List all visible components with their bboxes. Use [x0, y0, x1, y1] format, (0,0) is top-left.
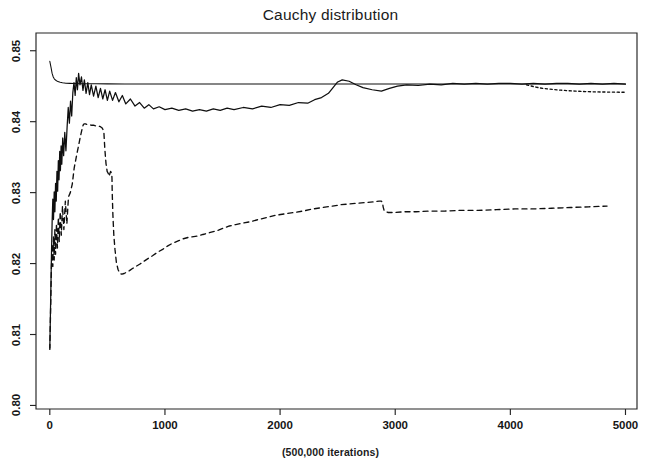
- x-tick-label: 3000: [382, 419, 408, 431]
- tick-marks-group: [30, 51, 625, 415]
- y-tick-label: 0.83: [10, 181, 22, 203]
- x-tick-label: 1000: [152, 419, 178, 431]
- x-tick-label: 0: [47, 419, 53, 431]
- x-tick-label: 4000: [498, 419, 524, 431]
- series-jagged-estimator: [50, 73, 626, 348]
- y-tick-label: 0.82: [10, 252, 22, 274]
- figure-canvas: Cauchy distribution 01000200030004000500…: [0, 0, 661, 471]
- x-axis-label: (500,000 iterations): [0, 446, 661, 458]
- series-dotted-estimator-tail: [526, 85, 625, 92]
- x-tick-label: 2000: [267, 419, 293, 431]
- series-dashed-estimator: [50, 124, 607, 350]
- y-tick-label: 0.85: [10, 40, 22, 62]
- series-smooth-estimator: [50, 61, 626, 84]
- x-tick-label: 5000: [613, 419, 639, 431]
- y-tick-label: 0.80: [10, 394, 22, 416]
- plot-area: [0, 0, 661, 471]
- y-tick-label: 0.81: [10, 323, 22, 345]
- data-series-group: [50, 61, 626, 349]
- y-tick-label: 0.84: [10, 110, 22, 132]
